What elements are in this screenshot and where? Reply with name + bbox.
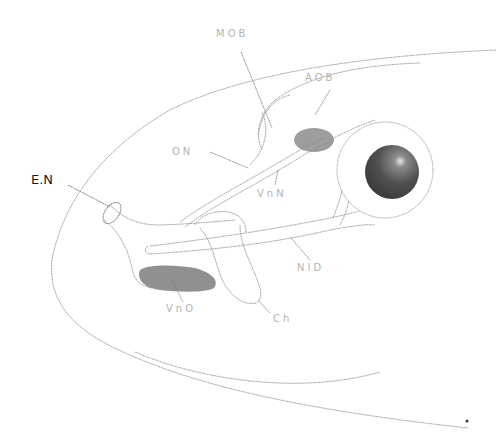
label-vnn: VnN — [257, 188, 287, 199]
olfactory-nerve — [180, 138, 325, 222]
label-on: ON — [172, 146, 193, 157]
label-en: E.N — [31, 172, 53, 187]
head-outline — [52, 50, 496, 428]
jaw-outline — [135, 352, 380, 383]
accessory-olfactory-bulb — [294, 128, 334, 152]
label-nid: NID — [297, 262, 324, 273]
eye-pupil — [365, 145, 419, 199]
nasolacrimal-duct — [150, 208, 372, 246]
label-aob: AOB — [305, 72, 335, 83]
label-mob: MOB — [216, 28, 248, 39]
diagram-canvas: MOB AOB ON VnN E.N NID VnO Ch — [0, 0, 496, 438]
label-ch: Ch — [273, 313, 292, 324]
anatomy-drawing — [0, 0, 496, 438]
nasal-tube — [110, 205, 235, 225]
label-vno: VnO — [166, 303, 196, 314]
